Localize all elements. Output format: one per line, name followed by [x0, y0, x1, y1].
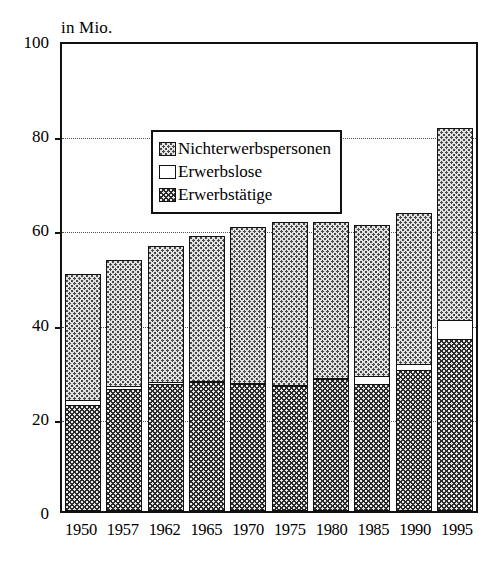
legend-label-erwerbstaetige: Erwerbstätige	[178, 186, 272, 203]
y-axis-tick-labels: 100 80 60 40 20 0	[0, 42, 56, 513]
y-tickmark-20	[55, 421, 62, 423]
legend-item-nichterwerbspersonen[interactable]: Nichterwerbspersonen	[159, 137, 331, 160]
segment-nichterwerbspersonen	[106, 260, 142, 388]
segment-nichterwerbspersonen	[354, 225, 390, 378]
segment-erwerbstaetige	[354, 384, 390, 511]
x-tick-label-1980: 1980	[314, 517, 350, 545]
bar-1950[interactable]	[65, 274, 101, 511]
segment-nichterwerbspersonen	[148, 246, 184, 384]
segment-erwerbstaetige	[106, 389, 142, 512]
bar-group	[62, 44, 476, 511]
segment-erwerbstaetige	[65, 405, 101, 511]
x-tick-label-1990: 1990	[397, 517, 433, 545]
x-tick-label-1970: 1970	[230, 517, 266, 545]
y-tickmark-60	[55, 232, 62, 234]
y-tick-label-100: 100	[24, 34, 50, 51]
legend-swatch-nichterwerbspersonen-icon	[159, 142, 176, 156]
segment-erwerbstaetige	[272, 386, 308, 511]
segment-erwerbstaetige	[437, 339, 473, 511]
segment-nichterwerbspersonen	[65, 274, 101, 401]
segment-nichterwerbspersonen	[437, 128, 473, 321]
y-tick-label-60: 60	[32, 222, 49, 239]
segment-erwerbslose	[437, 320, 473, 341]
bar-1985[interactable]	[354, 225, 390, 511]
bar-1965[interactable]	[189, 236, 225, 511]
legend-label-nichterwerbspersonen: Nichterwerbspersonen	[178, 140, 331, 157]
legend-swatch-erwerbslose-icon	[159, 165, 176, 179]
legend-item-erwerbslose[interactable]: Erwerbslose	[159, 160, 331, 183]
x-tick-label-1957: 1957	[105, 517, 141, 545]
plot-area: Nichterwerbspersonen Erwerbslose Erwerbs…	[60, 42, 478, 513]
y-tick-label-0: 0	[41, 505, 50, 522]
x-tick-label-1965: 1965	[188, 517, 224, 545]
segment-erwerbstaetige	[313, 379, 349, 511]
segment-nichterwerbspersonen	[272, 222, 308, 386]
segment-nichterwerbspersonen	[189, 236, 225, 382]
bar-1957[interactable]	[106, 260, 142, 511]
y-tick-label-80: 80	[32, 128, 49, 145]
bar-1962[interactable]	[148, 246, 184, 511]
bar-1990[interactable]	[396, 213, 432, 511]
bar-chart-figure: in Mio. 100 80 60 40 20 0	[0, 0, 502, 561]
y-axis-unit-label: in Mio.	[61, 19, 112, 37]
bar-1980[interactable]	[313, 222, 349, 511]
segment-nichterwerbspersonen	[230, 227, 266, 385]
bar-1995[interactable]	[437, 128, 473, 511]
bar-1970[interactable]	[230, 227, 266, 511]
x-tick-label-1962: 1962	[147, 517, 183, 545]
chart-legend: Nichterwerbspersonen Erwerbslose Erwerbs…	[151, 130, 342, 214]
y-tick-label-20: 20	[32, 410, 49, 427]
y-tickmark-80	[55, 138, 62, 140]
segment-erwerbstaetige	[396, 370, 432, 511]
x-tick-label-1985: 1985	[355, 517, 391, 545]
legend-swatch-erwerbstaetige-icon	[159, 188, 176, 202]
x-tick-label-1995: 1995	[439, 517, 475, 545]
segment-erwerbstaetige	[189, 382, 225, 512]
legend-item-erwerbstaetige[interactable]: Erwerbstätige	[159, 183, 331, 206]
x-axis-tick-labels: 1950 1957 1962 1965 1970 1975 1980 1985 …	[60, 517, 478, 545]
y-tickmark-40	[55, 327, 62, 329]
segment-erwerbstaetige	[148, 384, 184, 511]
y-tick-label-40: 40	[32, 316, 49, 333]
x-tick-label-1950: 1950	[63, 517, 99, 545]
x-tick-label-1975: 1975	[272, 517, 308, 545]
segment-nichterwerbspersonen	[396, 213, 432, 366]
bar-1975[interactable]	[272, 222, 308, 511]
legend-label-erwerbslose: Erwerbslose	[178, 163, 262, 180]
segment-erwerbstaetige	[230, 384, 266, 511]
segment-nichterwerbspersonen	[313, 222, 349, 379]
